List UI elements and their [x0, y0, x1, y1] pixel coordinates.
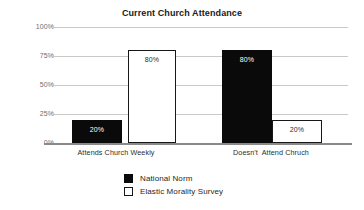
bar-value-label: 20%: [273, 126, 321, 133]
x-axis-category-doesnt-attend-church: Doesn't Attend Chruch: [206, 148, 336, 157]
chart-legend: National Norm Elastic Morality Survey: [124, 172, 284, 198]
bar-value-label: 20%: [73, 126, 121, 133]
x-axis-baseline: [44, 143, 352, 145]
gridline-25: [48, 114, 348, 115]
bar-attends-church-weekly-elastic-morality-survey[interactable]: 80%: [128, 50, 176, 143]
legend-swatch-filled-icon: [124, 174, 133, 183]
bar-value-label: 80%: [129, 56, 175, 63]
bar-doesnt-attend-church-national-norm[interactable]: 80%: [222, 50, 272, 143]
legend-label-national-norm: National Norm: [140, 173, 192, 184]
legend-item-national-norm[interactable]: National Norm: [124, 172, 284, 185]
chart-screenshot: Current Church Attendance 100% 75% 50% 2…: [0, 0, 364, 210]
gridline-75: [48, 56, 348, 57]
chart-title: Current Church Attendance: [0, 8, 364, 18]
legend-label-elastic-morality-survey: Elastic Morality Survey: [140, 186, 223, 197]
plot-area: 20% 80% 80% 20%: [48, 27, 348, 143]
legend-swatch-hollow-icon: [124, 187, 133, 196]
bar-value-label: 80%: [223, 56, 271, 63]
legend-item-elastic-morality-survey[interactable]: Elastic Morality Survey: [124, 185, 284, 198]
bar-doesnt-attend-church-elastic-morality-survey[interactable]: 20%: [272, 120, 322, 143]
bar-attends-church-weekly-national-norm[interactable]: 20%: [72, 120, 122, 143]
gridline-100: [48, 27, 348, 28]
gridline-50: [48, 85, 348, 86]
x-axis-category-attends-church-weekly: Attends Church Weekly: [56, 148, 176, 157]
